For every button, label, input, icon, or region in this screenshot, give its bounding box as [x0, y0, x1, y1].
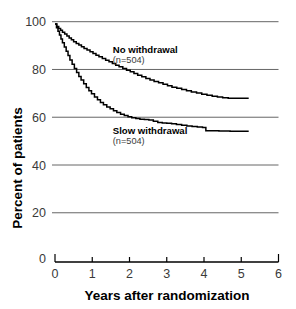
y-tick-label-0: 0 — [39, 252, 46, 266]
annotation-sublabel-0: (n=504) — [113, 55, 145, 65]
y-tick-label-60: 60 — [32, 111, 46, 125]
y-tick-label-40: 40 — [32, 159, 46, 173]
y-tick-label-20: 20 — [32, 206, 46, 220]
annotation-sublabel-1: (n=504) — [113, 136, 145, 146]
x-axis-tick-labels: 0123456 — [52, 267, 283, 281]
curve-no-withdrawal — [55, 24, 249, 98]
x-tick-label-5: 5 — [238, 267, 245, 281]
x-axis-title: Years after randomization — [84, 288, 249, 303]
y-axis-tick-labels: 20406080100 — [25, 15, 46, 220]
y-axis-title: Percent of patients — [10, 107, 25, 229]
figure-container: 20406080100 0 0123456 No withdrawal(n=50… — [0, 0, 296, 309]
x-tick-label-4: 4 — [201, 267, 208, 281]
annotation-label-0: No withdrawal — [113, 44, 178, 55]
series-annotations-group: No withdrawal(n=504)Slow withdrawal(n=50… — [113, 44, 188, 146]
y-tick-label-80: 80 — [32, 63, 46, 77]
x-tick-label-2: 2 — [126, 267, 133, 281]
curves-group — [55, 24, 249, 131]
x-axis-group: 0 — [39, 252, 278, 266]
x-tick-label-6: 6 — [275, 267, 282, 281]
y-tick-label-100: 100 — [25, 15, 46, 29]
x-tick-label-3: 3 — [163, 267, 170, 281]
curve-slow-withdrawal — [55, 24, 249, 131]
annotation-label-1: Slow withdrawal — [113, 125, 188, 136]
survival-curve-chart: 20406080100 0 0123456 No withdrawal(n=50… — [0, 0, 296, 309]
x-tick-label-1: 1 — [89, 267, 96, 281]
x-tick-label-0: 0 — [52, 267, 59, 281]
